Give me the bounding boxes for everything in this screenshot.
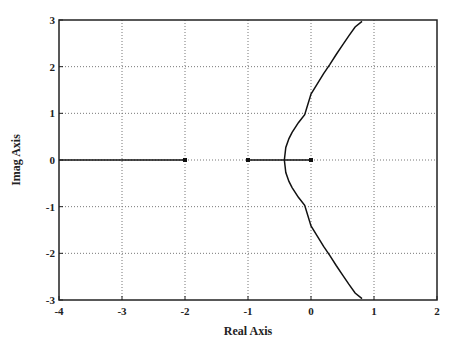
x-tick-label: -2 bbox=[180, 305, 190, 317]
x-tick-label: 2 bbox=[434, 305, 440, 317]
y-axis-label: Imag Axis bbox=[9, 134, 23, 186]
y-tick-label: -2 bbox=[46, 247, 56, 259]
locus-branch bbox=[284, 21, 362, 160]
x-tick-label: -1 bbox=[243, 305, 252, 317]
root-locus-chart: -4-3-2-1012-3-2-10123Real AxisImag Axis bbox=[0, 0, 457, 353]
pole-marker bbox=[309, 158, 313, 162]
x-tick-label: -3 bbox=[117, 305, 127, 317]
pole-marker bbox=[246, 158, 250, 162]
y-tick-label: 0 bbox=[50, 154, 56, 166]
x-tick-label: 0 bbox=[308, 305, 314, 317]
y-tick-label: -3 bbox=[46, 294, 56, 306]
y-tick-label: 1 bbox=[50, 107, 56, 119]
y-tick-label: 3 bbox=[50, 14, 56, 26]
x-axis-label: Real Axis bbox=[224, 324, 273, 338]
x-tick-label: 1 bbox=[371, 305, 377, 317]
pole-marker bbox=[183, 158, 187, 162]
y-tick-label: 2 bbox=[50, 61, 56, 73]
y-tick-label: -1 bbox=[46, 201, 55, 213]
locus-branch bbox=[284, 160, 362, 299]
x-tick-label: -4 bbox=[54, 305, 64, 317]
